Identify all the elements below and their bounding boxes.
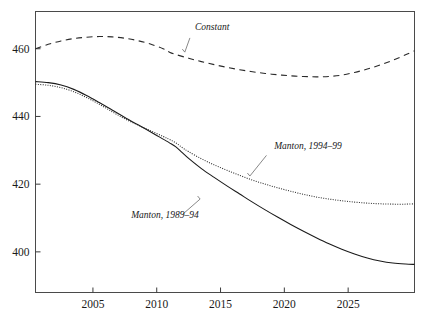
x-axis-tick-label: 2015 (209, 298, 232, 310)
series-label-leader-tick (247, 173, 250, 176)
line-chart: 40042044046020052010201520202025Constant… (0, 0, 422, 325)
plot-frame (36, 12, 415, 293)
series-label-2: Manton, 1994–99 (273, 141, 342, 151)
y-axis-tick-label: 420 (12, 178, 30, 190)
x-axis-tick-label: 2025 (337, 298, 360, 310)
series-label-3: Manton, 1989–94 (130, 210, 199, 220)
series-label-leader-tick (198, 196, 201, 199)
x-axis-tick-label: 2020 (273, 298, 296, 310)
y-axis-tick-label: 400 (12, 246, 30, 258)
y-axis-tick-label: 440 (12, 110, 30, 122)
x-axis-tick-label: 2010 (145, 298, 168, 310)
series-line-1 (36, 37, 415, 77)
y-axis-tick-label: 460 (12, 43, 30, 55)
x-axis-tick-label: 2005 (81, 298, 104, 310)
series-label-leader-line (185, 38, 190, 52)
series-label-1: Constant (195, 22, 230, 32)
series-line-3 (36, 82, 415, 265)
chart-figure: 40042044046020052010201520202025Constant… (0, 0, 422, 325)
series-label-leader-line (250, 155, 267, 176)
series-label-leader-tick (182, 49, 185, 52)
series-line-2 (36, 84, 415, 204)
